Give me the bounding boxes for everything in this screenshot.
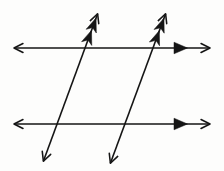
figure-background	[0, 0, 224, 171]
geometry-figure	[0, 0, 224, 171]
parallel-lines-diagram	[0, 0, 224, 171]
